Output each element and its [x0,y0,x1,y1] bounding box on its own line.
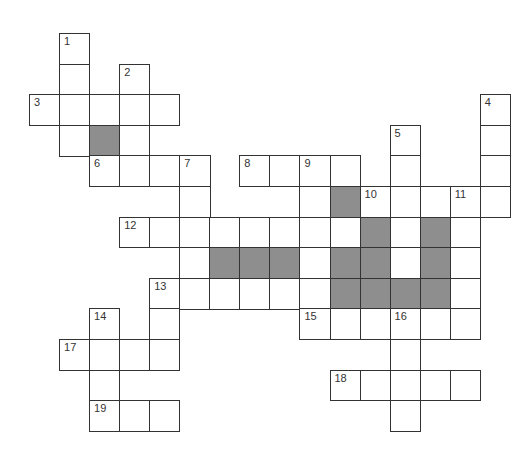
answer-cell[interactable] [390,339,421,371]
shaded-cell [330,247,361,279]
clue-cell-1[interactable]: 1 [59,33,90,65]
answer-cell[interactable] [119,400,150,432]
crossword-grid: 12345678910111213141516171819 [0,0,532,456]
shaded-cell [360,247,391,279]
shaded-cell [239,247,270,279]
clue-number: 2 [124,67,130,78]
shaded-cell [420,217,451,249]
answer-cell[interactable] [89,370,120,402]
answer-cell[interactable] [450,308,481,340]
answer-cell[interactable] [119,339,150,371]
answer-cell[interactable] [179,278,210,310]
answer-cell[interactable] [390,217,421,249]
answer-cell[interactable] [299,217,330,249]
answer-cell[interactable] [269,155,300,187]
clue-cell-16[interactable]: 16 [390,308,421,340]
shaded-cell [209,247,240,279]
answer-cell[interactable] [59,64,90,96]
answer-cell[interactable] [330,217,361,249]
clue-cell-14[interactable]: 14 [89,308,120,340]
answer-cell[interactable] [420,308,451,340]
answer-cell[interactable] [179,247,210,279]
answer-cell[interactable] [390,400,421,432]
clue-cell-11[interactable]: 11 [450,186,481,218]
clue-number: 3 [34,97,40,108]
answer-cell[interactable] [119,125,150,157]
answer-cell[interactable] [390,155,421,187]
answer-cell[interactable] [450,370,481,402]
clue-cell-17[interactable]: 17 [59,339,90,371]
clue-cell-10[interactable]: 10 [360,186,391,218]
answer-cell[interactable] [209,278,240,310]
answer-cell[interactable] [149,94,180,126]
answer-cell[interactable] [149,155,180,187]
clue-cell-6[interactable]: 6 [89,155,120,187]
clue-cell-5[interactable]: 5 [390,125,421,157]
answer-cell[interactable] [450,217,481,249]
clue-number: 10 [365,189,377,200]
clue-number: 18 [335,373,347,384]
shaded-cell [330,278,361,310]
clue-cell-12[interactable]: 12 [119,217,150,249]
clue-cell-15[interactable]: 15 [299,308,330,340]
answer-cell[interactable] [390,186,421,218]
clue-cell-4[interactable]: 4 [480,94,511,126]
answer-cell[interactable] [179,186,210,218]
clue-number: 15 [304,311,316,322]
clue-number: 6 [94,158,100,169]
answer-cell[interactable] [360,308,391,340]
answer-cell[interactable] [480,125,511,157]
shaded-cell [360,278,391,310]
answer-cell[interactable] [269,217,300,249]
clue-cell-19[interactable]: 19 [89,400,120,432]
answer-cell[interactable] [239,278,270,310]
shaded-cell [390,278,421,310]
answer-cell[interactable] [119,155,150,187]
answer-cell[interactable] [480,155,511,187]
clue-cell-13[interactable]: 13 [149,278,180,310]
clue-number: 17 [64,342,76,353]
answer-cell[interactable] [450,278,481,310]
shaded-cell [420,278,451,310]
answer-cell[interactable] [149,217,180,249]
clue-number: 5 [395,128,401,139]
clue-cell-8[interactable]: 8 [239,155,270,187]
clue-cell-18[interactable]: 18 [330,370,361,402]
answer-cell[interactable] [330,308,361,340]
answer-cell[interactable] [269,278,300,310]
answer-cell[interactable] [119,94,150,126]
answer-cell[interactable] [59,125,90,157]
answer-cell[interactable] [209,217,240,249]
answer-cell[interactable] [390,247,421,279]
answer-cell[interactable] [149,339,180,371]
clue-number: 16 [395,311,407,322]
answer-cell[interactable] [299,278,330,310]
answer-cell[interactable] [179,217,210,249]
shaded-cell [360,217,391,249]
clue-number: 7 [184,158,190,169]
answer-cell[interactable] [420,186,451,218]
clue-cell-3[interactable]: 3 [29,94,60,126]
clue-cell-2[interactable]: 2 [119,64,150,96]
answer-cell[interactable] [390,370,421,402]
answer-cell[interactable] [149,308,180,340]
answer-cell[interactable] [149,400,180,432]
clue-cell-7[interactable]: 7 [179,155,210,187]
clue-number: 14 [94,311,106,322]
answer-cell[interactable] [420,370,451,402]
clue-number: 13 [154,281,166,292]
shaded-cell [330,186,361,218]
answer-cell[interactable] [89,339,120,371]
answer-cell[interactable] [239,217,270,249]
answer-cell[interactable] [450,247,481,279]
clue-number: 8 [244,158,250,169]
answer-cell[interactable] [480,186,511,218]
answer-cell[interactable] [330,155,361,187]
answer-cell[interactable] [360,370,391,402]
clue-cell-9[interactable]: 9 [299,155,330,187]
clue-number: 1 [64,36,70,47]
answer-cell[interactable] [299,247,330,279]
answer-cell[interactable] [59,94,90,126]
answer-cell[interactable] [299,186,330,218]
answer-cell[interactable] [89,94,120,126]
